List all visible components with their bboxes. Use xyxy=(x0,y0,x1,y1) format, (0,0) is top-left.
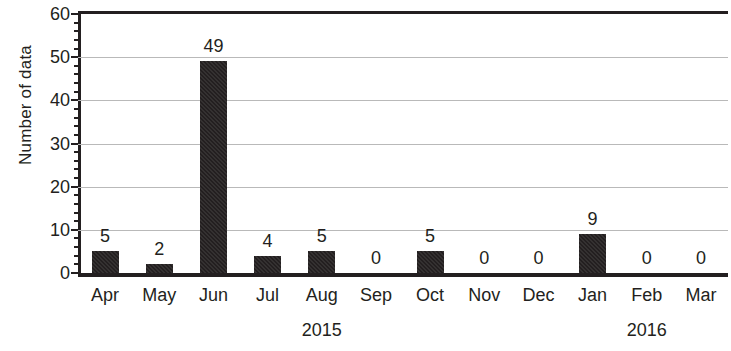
bar xyxy=(579,234,606,273)
x-axis-tick-label: Jun xyxy=(186,285,240,305)
x-axis-tick-label: Nov xyxy=(457,285,511,305)
x-axis-tick-label: Dec xyxy=(511,285,565,305)
gridline xyxy=(78,144,728,145)
y-axis-tick-label: 0 xyxy=(26,264,70,282)
y-axis-tick-label: 60 xyxy=(26,5,70,23)
bar xyxy=(200,61,227,273)
plot-area: 5249450500900 xyxy=(78,11,728,277)
y-axis-tick-label: 20 xyxy=(26,178,70,196)
bar-value-label: 0 xyxy=(508,249,568,267)
x-axis-tick-label: Feb xyxy=(620,285,674,305)
bar-value-label: 0 xyxy=(346,249,406,267)
gridline xyxy=(78,57,728,58)
x-axis-group-label: 2016 xyxy=(566,320,729,340)
x-axis-tick-label: Jul xyxy=(241,285,295,305)
y-axis-tick-labels: 0102030405060 xyxy=(26,0,70,351)
x-axis-tick-label: Apr xyxy=(78,285,132,305)
bar-value-label: 0 xyxy=(454,249,514,267)
y-axis-tick-label: 40 xyxy=(26,91,70,109)
y-axis-tick-label: 30 xyxy=(26,135,70,153)
bar-value-label: 5 xyxy=(292,227,352,245)
bar-value-label: 4 xyxy=(238,232,298,250)
bar-value-label: 5 xyxy=(75,227,135,245)
y-axis-tick-label: 50 xyxy=(26,48,70,66)
y-axis-tick-label: 10 xyxy=(26,221,70,239)
x-axis-tick-label: Jan xyxy=(566,285,620,305)
bar xyxy=(254,256,281,273)
x-axis-tick-labels: AprMayJunJulAugSepOctNovDecJanFebMar xyxy=(78,285,728,311)
bar-value-label: 0 xyxy=(671,249,731,267)
bar xyxy=(308,251,335,273)
bar xyxy=(146,264,173,273)
x-axis-group-labels: 20152016 xyxy=(78,320,728,346)
x-axis-tick-label: Oct xyxy=(403,285,457,305)
gridline xyxy=(78,187,728,188)
bar xyxy=(417,251,444,273)
x-axis-tick-label: May xyxy=(132,285,186,305)
bar-value-label: 5 xyxy=(400,227,460,245)
plot-frame-top-border xyxy=(78,11,728,14)
x-axis-tick-label: Aug xyxy=(295,285,349,305)
bar-value-label: 2 xyxy=(129,240,189,258)
bar-value-label: 0 xyxy=(617,249,677,267)
plot-frame-bottom-axis xyxy=(78,273,728,277)
gridline xyxy=(78,100,728,101)
bar xyxy=(92,251,119,273)
x-axis-group-label: 2015 xyxy=(78,320,566,340)
bar-chart: Number of data 0102030405060 52494505009… xyxy=(0,0,731,351)
x-axis-tick-label: Sep xyxy=(349,285,403,305)
x-axis-tick-label: Mar xyxy=(674,285,728,305)
bar-value-label: 49 xyxy=(183,37,243,55)
bar-value-label: 9 xyxy=(563,210,623,228)
